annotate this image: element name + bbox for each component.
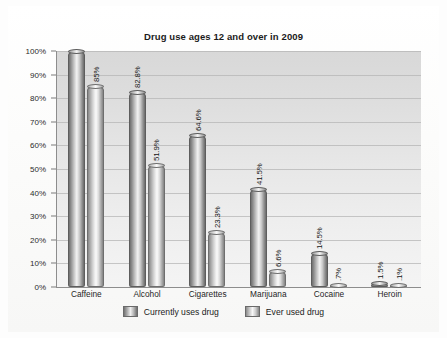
bar-value-label: 51.9% [152,139,161,161]
bar-value-label: 1.5% [376,262,385,279]
bar-series-2-caffeine: 85% [87,86,104,287]
chart-figure: Drug use ages 12 and over in 2009 0%10%2… [0,0,447,338]
bar-cap [390,283,407,288]
bar-group: 14.5%.7% [300,51,361,287]
y-tick-label: 90% [30,70,46,79]
x-tick-label-heroin: Heroin [377,289,401,299]
bar-series-1-marijuana: 41.5% [250,189,267,287]
bar-group: 41.5%6.6% [239,51,300,287]
bar-value-label: 41.5% [255,163,264,185]
bar-series-2-heroin: .1% [390,285,407,287]
legend-label: Currently uses drug [144,307,219,317]
bar-series-1-heroin: 1.5% [371,283,388,287]
bar-group: 82.8%51.9% [118,51,179,287]
x-tick-label-marijuana: Marijuana [250,289,286,299]
bar-series-1-alcohol: 82.8% [129,92,146,287]
bar-series-2-cocaine: .7% [330,285,347,287]
bar-cap [311,251,328,256]
y-tick-label: 80% [30,94,46,103]
bar-group: 85% [57,51,118,287]
chart-title: Drug use ages 12 and over in 2009 [0,31,447,42]
plot-area: 85%82.8%51.9%64.6%23.3%41.5%6.6%14.5%.7%… [56,51,421,288]
bar-series-2-alcohol: 51.9% [148,165,165,287]
bar-series-1-caffeine [68,51,85,287]
bar-series-2-cigarettes: 23.3% [208,232,225,287]
bar-series-1-cocaine: 14.5% [311,253,328,287]
chart-legend: Currently uses drugEver used drug [0,306,447,317]
legend-item-1[interactable]: Currently uses drug [123,306,219,317]
bar-value-label: 85% [92,67,101,82]
bar-cap [250,187,267,192]
legend-label: Ever used drug [266,307,324,317]
bar-value-label: 82.8% [133,66,142,88]
bar-series-2-marijuana: 6.6% [269,271,286,287]
bar-value-label: .7% [334,268,343,281]
series-2-swatch [245,306,260,317]
bar-cap [208,230,225,235]
y-tick-label: 70% [30,117,46,126]
bar-value-label: 64.6% [194,109,203,131]
legend-item-2[interactable]: Ever used drug [245,306,324,317]
bar-value-label: .1% [395,268,404,281]
bar-group: 64.6%23.3% [178,51,239,287]
y-tick-label: 60% [30,141,46,150]
bar-value-label: 14.5% [315,227,324,249]
y-tick-label: 30% [30,212,46,221]
y-tick-label: 10% [30,259,46,268]
bar-cap [148,163,165,168]
bar-series-1-cigarettes: 64.6% [189,135,206,287]
y-tick-label: 20% [30,235,46,244]
bar-cap [129,90,146,95]
bar-value-label: 23.3% [213,206,222,228]
y-tick-label: 0% [34,283,46,292]
x-tick-label-caffeine: Caffeine [71,289,102,299]
x-axis: CaffeineAlcoholCigarettesMarijuanaCocain… [56,289,420,305]
bar-cap [189,133,206,138]
y-axis: 0%10%20%30%40%50%60%70%80%90%100% [0,51,56,287]
bar-cap [330,283,347,288]
bar-cap [68,49,85,54]
bar-value-label: 6.6% [274,250,283,267]
y-tick-label: 100% [26,47,46,56]
bar-group: 1.5%.1% [360,51,421,287]
x-tick-label-cigarettes: Cigarettes [189,289,227,299]
x-tick-label-cocaine: Cocaine [314,289,344,299]
y-tick-label: 50% [30,165,46,174]
bar-cap [87,84,104,89]
bar-cap [269,269,286,274]
series-1-swatch [123,306,138,317]
x-tick-label-alcohol: Alcohol [133,289,160,299]
bar-cap [371,281,388,286]
y-tick-label: 40% [30,188,46,197]
